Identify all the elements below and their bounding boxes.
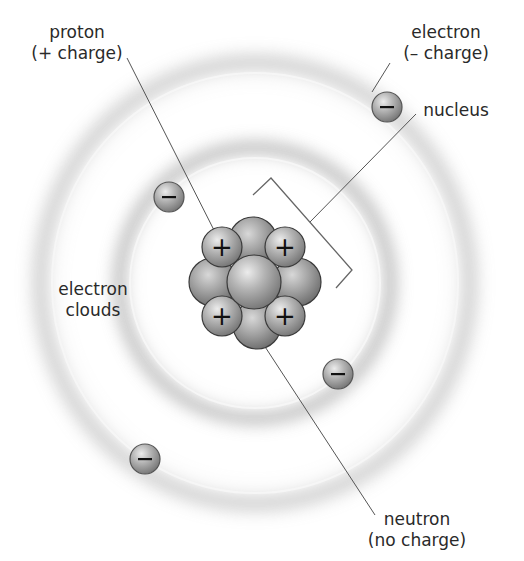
- electron-inner-top-left: [154, 182, 184, 212]
- neutron-label-line1: neutron: [362, 509, 472, 530]
- plus-icon: +: [274, 232, 296, 262]
- electron-inner-bottom-right: [323, 359, 353, 389]
- plus-icon: +: [211, 301, 233, 331]
- electron-label: electron (– charge): [392, 22, 500, 64]
- electron-leader-line: [372, 63, 390, 92]
- proton-label-line1: proton: [22, 22, 132, 43]
- minus-icon: [138, 458, 152, 460]
- proton-label: proton (+ charge): [22, 22, 132, 64]
- neutron-label-line2: (no charge): [362, 530, 472, 551]
- proton-top-left: +: [202, 227, 242, 267]
- minus-icon: [380, 106, 394, 108]
- electron-outer-bottom-left: [130, 444, 160, 474]
- electron-clouds-label-line2: clouds: [50, 300, 136, 321]
- plus-icon: +: [274, 301, 296, 331]
- electron-label-line2: (– charge): [392, 43, 500, 64]
- neutron-label: neutron (no charge): [362, 509, 472, 551]
- plus-icon: +: [211, 232, 233, 262]
- electron-label-line1: electron: [392, 22, 500, 43]
- nucleus-label: nucleus: [416, 100, 496, 121]
- nucleus-label-line1: nucleus: [416, 100, 496, 121]
- proton-label-line2: (+ charge): [22, 43, 132, 64]
- minus-icon: [162, 196, 176, 198]
- nucleus: + + + +: [189, 217, 321, 349]
- minus-icon: [331, 373, 345, 375]
- electron-clouds-label: electron clouds: [50, 279, 136, 321]
- neutron-center: [227, 255, 281, 309]
- electron-clouds-label-line1: electron: [50, 279, 136, 300]
- electron-outer-top-right: [372, 92, 402, 122]
